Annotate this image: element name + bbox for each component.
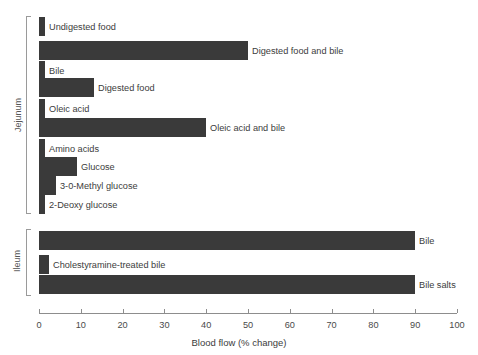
- x-tick: [81, 309, 82, 313]
- x-tick: [332, 309, 333, 313]
- bar-row: Bile salts: [39, 275, 457, 294]
- x-tick: [290, 309, 291, 313]
- bar-row: Bile: [39, 231, 457, 250]
- bar: [39, 255, 49, 274]
- x-tick-label: 0: [36, 320, 41, 330]
- x-tick-label: 50: [243, 320, 253, 330]
- bar: [39, 231, 415, 250]
- x-tick-label: 10: [76, 320, 86, 330]
- x-tick: [164, 309, 165, 313]
- jejunum-bracket: [26, 16, 31, 214]
- x-tick-label: 60: [285, 320, 295, 330]
- ileum-bracket: [26, 229, 31, 296]
- bar-label: Bile: [415, 236, 434, 246]
- x-tick-label: 30: [159, 320, 169, 330]
- x-tick: [123, 309, 124, 313]
- x-tick-label: 40: [201, 320, 211, 330]
- group-label-jejunum: Jejunum: [13, 90, 23, 140]
- x-tick-label: 100: [449, 320, 464, 330]
- x-tick-label: 70: [326, 320, 336, 330]
- x-axis-title: Blood flow (% change): [0, 337, 478, 348]
- ileum-plot-area: Bile Cholestyramine-treated bile Bile sa…: [39, 0, 457, 355]
- x-tick: [206, 309, 207, 313]
- x-tick: [39, 309, 40, 313]
- bar: [39, 275, 415, 294]
- x-tick-label: 80: [368, 320, 378, 330]
- x-tick: [248, 309, 249, 313]
- x-tick: [373, 309, 374, 313]
- x-tick-label: 90: [410, 320, 420, 330]
- x-axis-line: [39, 313, 457, 314]
- x-tick: [415, 309, 416, 313]
- group-label-ileum: Ileum: [12, 236, 22, 286]
- bar-row: Cholestyramine-treated bile: [39, 255, 457, 274]
- x-tick: [457, 309, 458, 313]
- x-tick-label: 20: [117, 320, 127, 330]
- bar-label: Cholestyramine-treated bile: [49, 260, 165, 270]
- bar-label: Bile salts: [415, 280, 456, 290]
- blood-flow-bar-chart: Jejunum Undigested food Digested food an…: [0, 0, 478, 355]
